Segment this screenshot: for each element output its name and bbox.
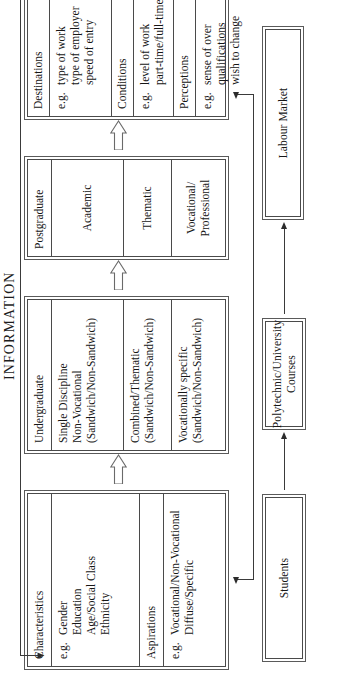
row-undergraduate-single-discipline: Single Discipline Non-Vocational (Sandwi… (52, 300, 124, 450)
information-line-span (20, 0, 21, 656)
row-aspirations-header: Aspirations (140, 494, 164, 666)
row-postgraduate-vocational-professional: Vocational/ Professional (172, 160, 224, 256)
connector-courses-to-labour (284, 228, 285, 314)
row-undergraduate-vocationally-specific: Vocationally specific (Sandwich/Non-Sand… (172, 300, 224, 450)
perceptions-items: sense of over qualifications wish to cha… (200, 16, 242, 85)
postgraduate-thematic-label: Thematic (140, 186, 154, 229)
arrowhead-feedback-into-outcomes-box (233, 92, 239, 99)
aspirations-eg-prefix: e.g. (168, 635, 182, 659)
row-postgraduate-academic: Academic (52, 160, 124, 256)
conditions-items: level of work part-time/full-time pay (138, 0, 166, 85)
stage-box-students: Students (262, 494, 306, 662)
arrowhead-information-left-end (38, 653, 45, 659)
block-arrow-postgraduate-to-outcomes (110, 120, 127, 150)
detail-box-labour-market-outcomes: Destinations e.g. type of work type of e… (24, 0, 229, 120)
stage-box-courses: Polytechnic/University Courses (262, 318, 306, 430)
destinations-eg-prefix: e.g. (54, 85, 68, 109)
conditions-eg-prefix: e.g. (138, 85, 152, 109)
detail-box-student-attributes: Characteristics e.g. Gender Education Ag… (24, 490, 229, 670)
row-undergraduate-header: Undergraduate (28, 300, 52, 450)
stage-label-courses: Polytechnic/University Courses (270, 320, 298, 428)
characteristics-eg-prefix: e.g. (56, 635, 70, 659)
destinations-label: Destinations (31, 52, 45, 110)
block-arrow-students-to-undergraduate (110, 454, 127, 484)
perceptions-label: Perceptions (177, 55, 191, 109)
undergraduate-label: Undergraduate (32, 375, 46, 443)
feedback-line-upper-span (253, 94, 254, 580)
undergraduate-single-discipline-items: Single Discipline Non-Vocational (Sandwi… (56, 318, 98, 443)
detail-box-undergraduate: Undergraduate Single Discipline Non-Voca… (24, 296, 229, 454)
information-line-left-stub (20, 655, 38, 656)
row-destinations-items: e.g. type of work type of employer speed… (50, 0, 112, 116)
diagram-rotation-wrapper: Students Polytechnic/University Courses … (0, 0, 351, 680)
information-feedback-label: INFORMATION (2, 271, 18, 380)
characteristics-label: Characteristics (32, 591, 46, 659)
aspirations-label: Aspirations (144, 606, 158, 659)
row-aspirations-items: e.g. Vocational/Non-Vocational Diffuse/S… (164, 494, 224, 666)
row-undergraduate-combined-thematic: Combined/Thematic (Sandwich/Non-Sandwich… (124, 300, 172, 450)
detail-box-postgraduate: Postgraduate Academic Thematic Vocationa… (24, 156, 229, 260)
block-arrow-undergraduate-to-postgraduate (110, 260, 127, 290)
row-characteristics-items: e.g. Gender Education Age/Social Class E… (52, 494, 140, 666)
feedback-line-upper-right-riser (236, 94, 254, 95)
row-characteristics-header: Characteristics (28, 494, 52, 666)
postgraduate-vocational-professional-label: Vocational/ Professional (184, 180, 212, 237)
stage-label-labour-market: Labour Market (276, 88, 290, 159)
row-perceptions-items: e.g. sense of over qualifications wish t… (196, 0, 254, 116)
stage-label-students: Students (277, 558, 291, 598)
row-perceptions-header: Perceptions (174, 0, 196, 116)
arrowhead-courses-to-labour (281, 222, 287, 229)
arrowhead-feedback-into-student-box (233, 577, 239, 584)
destinations-items: type of work type of employer speed of e… (54, 6, 96, 85)
conditions-label: Conditions (115, 59, 129, 109)
stage-box-labour-market: Labour Market (262, 26, 304, 220)
row-conditions-header: Conditions (112, 0, 134, 116)
perceptions-eg-prefix: e.g. (200, 85, 214, 109)
connector-students-to-courses (284, 438, 285, 490)
characteristics-items: Gender Education Age/Social Class Ethnic… (56, 556, 112, 635)
diagram-canvas: Students Polytechnic/University Courses … (0, 0, 351, 680)
postgraduate-label: Postgraduate (32, 190, 46, 249)
undergraduate-vocationally-specific-items: Vocationally specific (Sandwich/Non-Sand… (176, 318, 204, 443)
row-destinations-header: Destinations (28, 0, 50, 116)
aspirations-items: Vocational/Non-Vocational Diffuse/Specif… (168, 510, 196, 635)
arrowhead-students-to-courses (281, 432, 287, 439)
row-conditions-items: e.g. level of work part-time/full-time p… (134, 0, 174, 116)
undergraduate-combined-thematic-items: Combined/Thematic (Sandwich/Non-Sandwich… (128, 318, 156, 443)
row-postgraduate-header: Postgraduate (28, 160, 52, 256)
postgraduate-academic-label: Academic (80, 185, 94, 232)
feedback-line-upper-left-riser (236, 579, 254, 580)
row-postgraduate-thematic: Thematic (124, 160, 172, 256)
